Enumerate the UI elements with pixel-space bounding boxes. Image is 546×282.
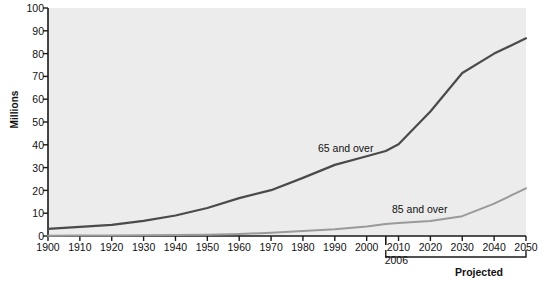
label-projected: Projected: [424, 266, 534, 278]
plot-background: [48, 8, 526, 236]
label-2006: 2006: [368, 254, 408, 266]
series-label-85-and-over: 85 and over: [392, 203, 447, 215]
population-projection-chart: older Mobile Food Production advanced Mi…: [0, 0, 546, 282]
plot-area: [0, 0, 546, 282]
x-tick-label: 2050: [506, 241, 546, 253]
x-axis-ticks: 1900191019201930194019501960197019801990…: [0, 241, 546, 257]
series-label-65-and-over: 65 and over: [318, 142, 373, 154]
